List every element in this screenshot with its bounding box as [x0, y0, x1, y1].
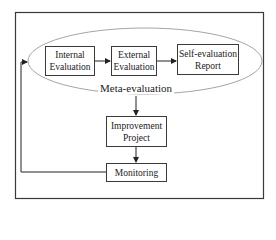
improvement-project-line2: Project: [123, 133, 150, 143]
internal-evaluation-line2: Evaluation: [49, 62, 90, 72]
improvement-project-box: ImprovementProject: [106, 116, 167, 147]
improvement-project-line1: Improvement: [111, 121, 162, 131]
meta-evaluation-label: Meta-evaluation: [98, 82, 174, 94]
self-evaluation-report-line1: Self-evaluation: [179, 49, 237, 59]
internal-evaluation-line1: Internal: [55, 50, 85, 60]
monitoring-label: Monitoring: [115, 167, 158, 179]
external-evaluation-line1: External: [118, 50, 150, 60]
external-evaluation-box: ExternalEvaluation: [111, 46, 157, 76]
feedback-loop-line: [21, 62, 106, 172]
self-evaluation-report-line2: Report: [195, 61, 221, 71]
monitoring-box: Monitoring: [106, 163, 167, 182]
self-evaluation-report-box: Self-evaluationReport: [177, 44, 239, 75]
internal-evaluation-box: InternalEvaluation: [45, 46, 95, 76]
external-evaluation-line2: Evaluation: [113, 62, 154, 72]
